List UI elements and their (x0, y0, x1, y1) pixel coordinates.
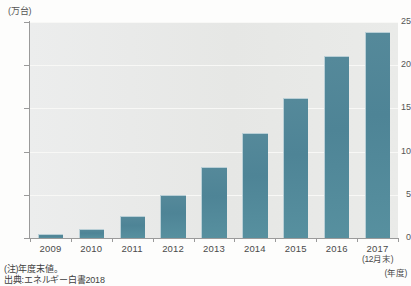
gridline (30, 22, 398, 23)
x-axis-tick-label: 2011 (112, 243, 153, 254)
x-axis-tick (30, 239, 31, 242)
x-axis-tick (234, 239, 235, 242)
x-axis-tick (71, 239, 72, 242)
y-axis-tick-label: 10 (389, 147, 411, 156)
plot-area (30, 22, 398, 238)
x-axis-tick (112, 239, 113, 242)
bar (120, 216, 145, 238)
y-axis-tick-label: 20 (389, 60, 411, 69)
bar (365, 32, 390, 238)
x-axis-tick (275, 239, 276, 242)
y-axis-tick (24, 238, 29, 239)
x-axis-tick-label: 2012 (153, 243, 194, 254)
x-axis-tick-sublabel: (12月末) (357, 254, 398, 265)
x-axis-tick-label: 2014 (234, 243, 275, 254)
y-axis-tick-label: 5 (389, 190, 411, 199)
x-axis-title: (年度) (385, 266, 407, 278)
bar (79, 229, 104, 239)
bar (283, 98, 308, 238)
x-axis-tick-label: 2010 (71, 243, 112, 254)
bar (242, 133, 267, 238)
x-axis-line (29, 238, 399, 239)
x-axis-tick (398, 239, 399, 242)
y-axis-tick (24, 195, 29, 196)
y-axis-tick (24, 65, 29, 66)
x-axis-tick (194, 239, 195, 242)
x-axis-tick-label: 2009 (30, 243, 71, 254)
chart-source: 出典:エネルギー白書2018 (4, 275, 105, 286)
x-axis-tick-label: 2016 (316, 243, 357, 254)
x-axis-tick (357, 239, 358, 242)
x-axis-tick (153, 239, 154, 242)
x-axis-tick-label: 2017(12月末) (357, 243, 398, 265)
bar (324, 56, 349, 238)
bar (160, 195, 185, 238)
y-axis-tick-label: 25 (389, 17, 411, 26)
y-axis-tick-label: 15 (389, 103, 411, 112)
x-axis-tick-label: 2013 (194, 243, 235, 254)
x-axis-tick-label: 2015 (275, 243, 316, 254)
y-axis-tick (24, 108, 29, 109)
y-axis-tick (24, 22, 29, 23)
bar (201, 167, 226, 238)
x-axis-tick (316, 239, 317, 242)
y-axis-tick-label: 0 (389, 233, 411, 242)
y-axis-line (29, 21, 30, 239)
y-axis-unit-label: (万台) (8, 4, 31, 17)
y-axis-tick (24, 152, 29, 153)
chart-note: (注)年度末値。 (4, 264, 62, 275)
